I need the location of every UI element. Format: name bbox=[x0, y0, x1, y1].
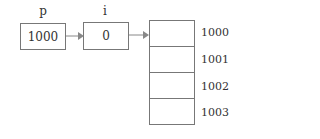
memory-cell bbox=[149, 46, 195, 73]
memory-cell bbox=[149, 72, 195, 99]
arrow-head-icon bbox=[78, 32, 84, 40]
address-label: 1001 bbox=[201, 53, 229, 66]
address-label: 1002 bbox=[201, 80, 229, 93]
memory-cell bbox=[149, 20, 195, 47]
memory-cell bbox=[149, 98, 195, 125]
memory-stack bbox=[149, 20, 195, 125]
address-label: 1003 bbox=[201, 106, 229, 119]
address-label: 1000 bbox=[201, 26, 229, 39]
